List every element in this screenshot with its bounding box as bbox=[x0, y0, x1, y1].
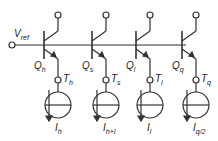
collector-terminal bbox=[193, 12, 199, 18]
terminal-label: Th bbox=[63, 73, 73, 86]
terminal-label: Ts bbox=[111, 73, 121, 86]
transistor-label: Qs bbox=[82, 60, 93, 73]
t-terminal bbox=[55, 77, 61, 83]
t-terminal bbox=[103, 77, 109, 83]
current-arrow-icon bbox=[94, 116, 100, 121]
emitter-arrow-icon bbox=[99, 52, 104, 57]
collector-lead bbox=[136, 31, 150, 41]
collector-lead bbox=[182, 31, 196, 41]
emitter-arrow-icon bbox=[143, 52, 148, 57]
current-label: Il bbox=[147, 122, 151, 135]
t-terminal bbox=[147, 77, 153, 83]
circuit-schematic bbox=[0, 0, 218, 141]
current-mirror-diagram: Vref QhThIhQsTsIh+IQlTlIlQqTqIq/2 bbox=[0, 0, 218, 141]
transistor-label: Ql bbox=[126, 60, 135, 73]
current-label: Ih+I bbox=[103, 122, 116, 135]
collector-lead bbox=[44, 31, 58, 41]
current-label: Ih bbox=[55, 122, 62, 135]
terminal-label: Tq bbox=[201, 73, 211, 86]
terminal-label: Tl bbox=[155, 73, 163, 86]
collector-terminal bbox=[55, 12, 61, 18]
collector-terminal bbox=[147, 12, 153, 18]
emitter-arrow-icon bbox=[51, 52, 56, 57]
collector-lead bbox=[92, 31, 106, 41]
transistor-label: Qh bbox=[34, 60, 46, 73]
emitter-arrow-icon bbox=[189, 52, 194, 57]
collector-terminal bbox=[103, 12, 109, 18]
current-arrow-icon bbox=[184, 116, 190, 121]
t-terminal bbox=[193, 77, 199, 83]
vref-terminal bbox=[9, 42, 15, 48]
current-label: Iq/2 bbox=[193, 122, 206, 135]
current-arrow-icon bbox=[46, 116, 52, 121]
transistor-label: Qq bbox=[172, 60, 184, 73]
current-arrow-icon bbox=[138, 116, 144, 121]
vref-label: Vref bbox=[14, 28, 29, 41]
